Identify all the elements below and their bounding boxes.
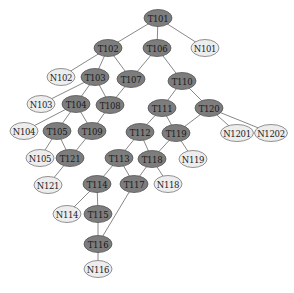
- node-t108: T108: [96, 97, 124, 114]
- node-t105: T105: [43, 123, 71, 140]
- node-n105: N105: [26, 150, 54, 167]
- tree-diagram: T101T102T106N101N102T103T107T110N103T104…: [0, 0, 294, 293]
- node-label: T107: [121, 75, 142, 85]
- node-t111: T111: [148, 100, 176, 117]
- node-label: T106: [147, 44, 168, 54]
- node-label: N119: [182, 155, 204, 165]
- node-n119: N119: [179, 151, 207, 168]
- node-n1202: N1202: [255, 125, 288, 142]
- node-t106: T106: [143, 40, 171, 57]
- node-t121: T121: [56, 150, 84, 167]
- node-label: T119: [166, 129, 187, 139]
- node-t113: T113: [105, 150, 133, 167]
- node-label: T116: [88, 240, 109, 250]
- node-t110: T110: [168, 73, 196, 90]
- node-label: T111: [152, 104, 173, 114]
- node-n103: N103: [27, 96, 55, 113]
- node-n121: N121: [34, 177, 62, 194]
- node-t112: T112: [126, 124, 154, 141]
- node-n101: N101: [191, 40, 219, 57]
- node-label: T102: [98, 44, 119, 54]
- node-label: N116: [87, 265, 109, 275]
- node-label: T115: [88, 210, 109, 220]
- node-label: N102: [50, 73, 72, 83]
- edges-layer: [24, 18, 271, 269]
- node-n118: N118: [154, 176, 182, 193]
- nodes-layer: T101T102T106N101N102T103T107T110N103T104…: [10, 10, 288, 278]
- node-label: T110: [172, 77, 193, 87]
- node-label: T121: [60, 154, 81, 164]
- node-t118: T118: [138, 151, 166, 168]
- node-t114: T114: [83, 176, 111, 193]
- node-t120: T120: [195, 100, 223, 117]
- node-t117: T117: [120, 176, 148, 193]
- node-label: T113: [109, 154, 130, 164]
- node-label: N1202: [257, 129, 285, 139]
- node-label: T114: [87, 180, 108, 190]
- node-t116: T116: [84, 236, 112, 253]
- node-t107: T107: [117, 71, 145, 88]
- node-label: T117: [124, 180, 145, 190]
- node-label: T112: [130, 128, 151, 138]
- node-t119: T119: [162, 125, 190, 142]
- node-t103: T103: [81, 69, 109, 86]
- node-n114: N114: [53, 206, 81, 223]
- node-label: T104: [66, 100, 87, 110]
- node-label: N104: [13, 127, 35, 137]
- node-label: N105: [29, 154, 51, 164]
- node-label: N101: [194, 44, 216, 54]
- node-label: T108: [100, 101, 121, 111]
- node-label: N103: [30, 100, 52, 110]
- node-label: N114: [56, 210, 78, 220]
- node-n1201: N1201: [221, 125, 254, 142]
- node-label: T105: [47, 127, 68, 137]
- node-t104: T104: [62, 96, 90, 113]
- node-t102: T102: [94, 40, 122, 57]
- node-label: T103: [85, 73, 106, 83]
- node-n104: N104: [10, 123, 38, 140]
- node-t101: T101: [144, 10, 172, 27]
- node-label: T109: [82, 127, 103, 137]
- node-label: T120: [199, 104, 220, 114]
- node-label: N118: [157, 180, 179, 190]
- node-label: T118: [142, 155, 163, 165]
- node-n102: N102: [47, 69, 75, 86]
- node-label: N121: [37, 181, 59, 191]
- node-label: T101: [148, 14, 169, 24]
- node-n116: N116: [84, 261, 112, 278]
- node-label: N1201: [223, 129, 251, 139]
- node-t115: T115: [84, 206, 112, 223]
- node-t109: T109: [78, 123, 106, 140]
